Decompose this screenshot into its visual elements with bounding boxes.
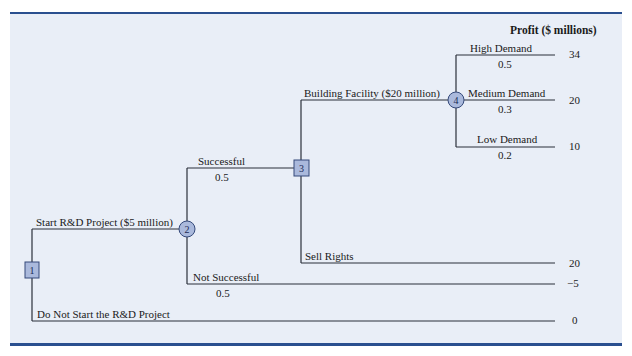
decision-node-3: 3: [294, 160, 309, 176]
prob-high-demand: 0.5: [498, 58, 512, 70]
prob-not-successful: 0.5: [216, 287, 230, 299]
branch-label-do-not-start: Do Not Start the R&D Project: [37, 308, 170, 320]
svg-text:1: 1: [30, 265, 35, 276]
branch-label-successful: Successful: [198, 155, 245, 167]
prob-medium-demand: 0.3: [498, 103, 512, 115]
payoff-sell-rights: 20: [569, 257, 580, 269]
payoff-not-successful: −5: [567, 277, 579, 289]
branch-label-not-successful: Not Successful: [193, 271, 259, 283]
branch-label-building-facility: Building Facility ($20 million): [304, 87, 440, 99]
prob-successful: 0.5: [215, 171, 229, 183]
profit-header: Profit ($ millions): [510, 24, 597, 36]
svg-text:4: 4: [454, 95, 459, 106]
branch-label-sell-rights: Sell Rights: [305, 250, 354, 262]
payoff-medium-demand: 20: [569, 94, 580, 106]
svg-text:3: 3: [299, 163, 304, 174]
branch-label-low-demand: Low Demand: [477, 133, 537, 145]
payoff-high-demand: 34: [569, 48, 580, 60]
prob-low-demand: 0.2: [498, 149, 512, 161]
payoff-do-not-start: 0: [572, 314, 578, 326]
chance-node-4: 4: [448, 92, 464, 108]
payoff-low-demand: 10: [569, 140, 580, 152]
svg-text:2: 2: [185, 224, 190, 235]
branch-label-medium-demand: Medium Demand: [468, 87, 545, 99]
branch-label-high-demand: High Demand: [470, 42, 532, 54]
decision-tree-lines: 1 2 3 4: [0, 0, 632, 356]
branch-label-start-rd: Start R&D Project ($5 million): [36, 216, 173, 228]
decision-node-1: 1: [25, 262, 39, 278]
chance-node-2: 2: [179, 221, 195, 237]
